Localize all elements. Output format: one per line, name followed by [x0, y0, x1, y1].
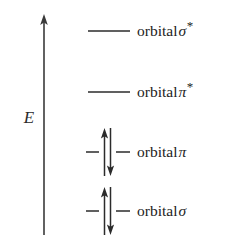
- mo-energy-diagram: E orbitalσ* orbitalπ*: [0, 0, 225, 243]
- orbital-label-word: orbital: [137, 143, 177, 160]
- electron-arrow-down: [107, 128, 114, 176]
- orbital-symbol: σ: [177, 202, 186, 219]
- energy-axis-label: E: [19, 108, 39, 128]
- orbital-antibonding-star: [186, 139, 187, 154]
- orbital-label-sigma: orbitalσ: [137, 200, 187, 222]
- orbital-label-pi: orbitalπ: [137, 141, 187, 163]
- orbital-label-word: orbital: [137, 22, 177, 39]
- orbital-antibonding-star: *: [186, 79, 193, 94]
- orbital-label-word: orbital: [137, 202, 177, 219]
- orbital-line-sigma-filled: [82, 185, 138, 237]
- electron-arrow-up: [101, 128, 108, 176]
- orbital-symbol: π: [177, 143, 186, 160]
- orbital-line-pi-star: [82, 66, 138, 118]
- electron-arrow-up: [101, 187, 108, 235]
- orbital-label-pi-star: orbitalπ*: [137, 81, 193, 103]
- orbital-antibonding-star: *: [186, 18, 193, 33]
- orbital-symbol: σ: [177, 22, 186, 39]
- orbital-antibonding-star: [186, 198, 187, 213]
- electron-arrow-down: [107, 187, 114, 235]
- orbital-label-sigma-star: orbitalσ*: [137, 20, 193, 42]
- orbital-label-word: orbital: [137, 83, 177, 100]
- orbital-line-sigma-star: [82, 5, 138, 57]
- orbital-line-pi-filled: [82, 126, 138, 178]
- orbital-symbol: π: [177, 83, 186, 100]
